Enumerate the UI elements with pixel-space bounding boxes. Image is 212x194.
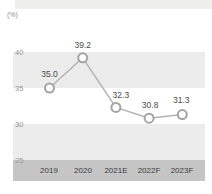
- data-point-marker: [78, 53, 87, 62]
- data-point-marker: [45, 84, 54, 93]
- x-tick-2023f: 2023F: [165, 166, 199, 175]
- x-tick-2021e: 2021E: [99, 166, 133, 175]
- x-tick-2020: 2020: [66, 166, 100, 175]
- data-point-label: 32.3: [107, 90, 135, 100]
- data-point-label: 39.2: [69, 40, 97, 50]
- x-tick-2022f: 2022F: [132, 166, 166, 175]
- data-point-label: 30.8: [136, 100, 164, 110]
- line-chart: (%) 40 35 30 25 35.039.232.330.831.3 201…: [0, 0, 212, 194]
- x-tick-2019: 2019: [32, 166, 66, 175]
- data-point-label: 31.3: [167, 95, 195, 105]
- data-point-label: 35.0: [36, 69, 64, 79]
- data-point-marker: [178, 110, 187, 119]
- data-point-marker: [111, 103, 120, 112]
- data-point-marker: [145, 114, 154, 123]
